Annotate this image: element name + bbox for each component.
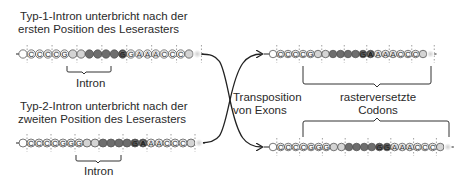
- nucleotide-bead: [69, 50, 77, 58]
- arrow-bottom-to-top: [200, 54, 262, 143]
- arrow-top-to-bottom: [200, 54, 262, 147]
- nucleotide-bead: [344, 50, 352, 58]
- svg-text:C: C: [45, 50, 51, 59]
- nucleotide-bead: C: [292, 143, 300, 152]
- transposition-arrows: [200, 54, 262, 147]
- nucleotide-bead: C: [35, 139, 43, 148]
- nucleotide-bead: A: [398, 143, 406, 152]
- nucleotide-bead: C: [397, 50, 405, 59]
- diagram-graphics: CCCCGGGAAACCC CCCCGGGGAAACCC CCCCGGAAAAC…: [0, 0, 466, 180]
- nucleotide-bead: C: [284, 50, 292, 59]
- strand-type2-original: CCCCGGGGAAACCC: [16, 134, 205, 152]
- strand-type1-original: CCCCGGGAAACCC: [16, 45, 203, 63]
- svg-text:C: C: [422, 143, 428, 152]
- strand-type2-transposed: CCCCGGGGGAAACCC: [264, 138, 454, 156]
- nucleotide-bead: A: [147, 139, 155, 148]
- shifted-codons-bracket-bottom: [303, 118, 449, 137]
- shifted-codons-bracket-top: [303, 66, 431, 87]
- intron-bracket-top: [67, 66, 111, 74]
- nucleotide-bead: G: [59, 139, 67, 148]
- nucleotide-bead: C: [177, 50, 185, 59]
- svg-text:G: G: [76, 139, 82, 148]
- nucleotide-bead: [436, 143, 444, 151]
- nucleotide-bead: C: [27, 139, 35, 148]
- nucleotide-bead: [77, 50, 85, 58]
- nucleotide-bead: [123, 139, 131, 147]
- svg-text:A: A: [140, 139, 145, 148]
- nucleotide-bead: G: [75, 139, 83, 148]
- nucleotide-bead: C: [299, 50, 307, 59]
- nucleotide-bead: [102, 50, 110, 58]
- nucleotide-bead: C: [160, 50, 168, 59]
- nucleotide-bead: C: [421, 143, 429, 152]
- nucleotide-bead: [322, 50, 330, 58]
- nucleotide-bead: [185, 50, 193, 58]
- svg-text:C: C: [53, 50, 59, 59]
- nucleotide-bead: [91, 139, 99, 147]
- nucleotide-bead: C: [44, 50, 52, 59]
- nucleotide-bead: A: [391, 143, 399, 152]
- svg-text:C: C: [278, 143, 284, 152]
- nucleotide-bead: [193, 50, 201, 58]
- nucleotide-bead: A: [367, 50, 375, 59]
- svg-text:A: A: [390, 50, 395, 59]
- svg-text:A: A: [153, 50, 158, 59]
- svg-text:A: A: [145, 50, 150, 59]
- svg-text:C: C: [413, 50, 419, 59]
- svg-text:G: G: [323, 143, 329, 152]
- svg-text:A: A: [375, 50, 380, 59]
- nucleotide-bead: [329, 50, 337, 58]
- nucleotide-bead: G: [322, 143, 330, 152]
- svg-text:G: G: [62, 50, 68, 59]
- nucleotide-bead: G: [307, 50, 315, 59]
- svg-text:C: C: [178, 50, 184, 59]
- svg-text:C: C: [405, 50, 411, 59]
- svg-text:G: G: [360, 50, 366, 59]
- nucleotide-bead: A: [382, 50, 390, 59]
- svg-text:G: G: [376, 143, 382, 152]
- nucleotide-bead: [19, 139, 27, 147]
- svg-text:C: C: [293, 50, 299, 59]
- nucleotide-bead: C: [292, 50, 300, 59]
- strand-type1-transposed: CCCCGGAAAACCC: [264, 45, 437, 63]
- nucleotide-bead: [19, 50, 27, 58]
- nucleotide-bead: C: [404, 50, 412, 59]
- nucleotide-bead: G: [127, 50, 135, 59]
- svg-text:G: G: [60, 139, 66, 148]
- svg-text:C: C: [161, 50, 167, 59]
- svg-text:C: C: [398, 50, 404, 59]
- svg-text:C: C: [29, 50, 35, 59]
- nucleotide-bead: A: [139, 139, 147, 148]
- nucleotide-bead: G: [60, 50, 68, 59]
- nucleotide-bead: [353, 143, 361, 151]
- nucleotide-bead: G: [315, 143, 323, 152]
- nucleotide-bead: [83, 139, 91, 147]
- svg-text:C: C: [278, 50, 284, 59]
- nucleotide-bead: C: [168, 50, 176, 59]
- svg-text:A: A: [368, 50, 373, 59]
- nucleotide-bead: [427, 50, 435, 58]
- svg-text:G: G: [128, 50, 134, 59]
- nucleotide-bead: C: [277, 143, 285, 152]
- nucleotide-bead: C: [43, 139, 51, 148]
- nucleotide-bead: G: [376, 143, 384, 152]
- intron-bracket-bottom: [76, 155, 121, 163]
- nucleotide-bead: C: [429, 143, 437, 152]
- nucleotide-bead: A: [155, 139, 163, 148]
- nucleotide-bead: G: [383, 143, 391, 152]
- nucleotide-bead: C: [277, 50, 285, 59]
- svg-text:A: A: [156, 139, 161, 148]
- nucleotide-bead: [269, 50, 277, 58]
- svg-text:C: C: [415, 143, 421, 152]
- nucleotide-bead: C: [179, 139, 187, 148]
- svg-text:A: A: [407, 143, 412, 152]
- svg-text:G: G: [384, 143, 390, 152]
- nucleotide-bead: [85, 50, 93, 58]
- nucleotide-bead: [110, 50, 118, 58]
- svg-text:C: C: [300, 50, 306, 59]
- nucleotide-bead: G: [359, 50, 367, 59]
- nucleotide-bead: [187, 139, 195, 147]
- nucleotide-bead: A: [135, 50, 143, 59]
- nucleotide-bead: [337, 50, 345, 58]
- svg-text:C: C: [28, 139, 34, 148]
